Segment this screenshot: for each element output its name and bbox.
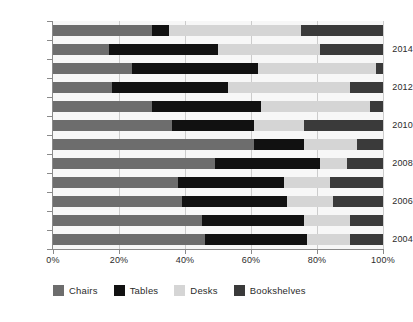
y-tick xyxy=(47,154,52,155)
legend-swatch-icon xyxy=(114,285,125,296)
bar-segment-chairs xyxy=(53,120,172,131)
bar-segment-tables xyxy=(132,63,257,74)
bar-segment-desks xyxy=(307,234,350,245)
bar-row xyxy=(53,215,383,226)
bar-segment-tables xyxy=(254,139,304,150)
bar-segment-chairs xyxy=(53,44,109,55)
bar-segment-chairs xyxy=(53,177,178,188)
bar-segment-bookshelves xyxy=(357,139,383,150)
bar-segment-chairs xyxy=(53,25,152,36)
bar-segment-tables xyxy=(152,101,261,112)
bar-segment-chairs xyxy=(53,234,205,245)
bar-segment-chairs xyxy=(53,63,132,74)
bar-row xyxy=(53,82,383,93)
bar-segment-desks xyxy=(169,25,301,36)
y-axis-label: 2006 xyxy=(369,196,413,206)
chart-legend: ChairsTablesDesksBookshelves xyxy=(53,285,322,296)
bar-row xyxy=(53,63,383,74)
bar-row xyxy=(53,101,383,112)
stacked-bar-chart: 201420122010200820062004 0%20%40%60%80%1… xyxy=(0,0,413,322)
bar-segment-desks xyxy=(258,63,377,74)
x-tick-40pct xyxy=(185,250,186,254)
x-axis-line xyxy=(52,249,384,250)
y-axis-label: 2004 xyxy=(369,234,413,244)
legend-item-tables[interactable]: Tables xyxy=(114,285,159,296)
bar-row xyxy=(53,234,383,245)
bar-segment-chairs xyxy=(53,82,112,93)
x-axis-label: 80% xyxy=(297,255,337,265)
bar-row xyxy=(53,139,383,150)
bar-segment-bookshelves xyxy=(370,101,383,112)
bar-segment-tables xyxy=(182,196,288,207)
bar-segment-desks xyxy=(254,120,304,131)
bar-segment-desks xyxy=(304,215,350,226)
legend-item-desks[interactable]: Desks xyxy=(174,285,217,296)
y-tick xyxy=(47,192,52,193)
legend-label: Tables xyxy=(130,285,159,296)
y-tick xyxy=(47,40,52,41)
bar-segment-tables xyxy=(202,215,304,226)
bar-segment-tables xyxy=(178,177,284,188)
y-axis-label: 2008 xyxy=(369,158,413,168)
y-tick xyxy=(47,21,52,22)
x-tick-60pct xyxy=(251,250,252,254)
x-axis-label: 40% xyxy=(165,255,205,265)
y-tick xyxy=(47,97,52,98)
bar-segment-desks xyxy=(284,177,330,188)
x-axis-label: 100% xyxy=(363,255,403,265)
x-axis-label: 0% xyxy=(33,255,73,265)
bar-segment-tables xyxy=(215,158,321,169)
y-tick xyxy=(47,78,52,79)
legend-label: Chairs xyxy=(69,285,98,296)
y-axis-label: 2010 xyxy=(369,120,413,130)
legend-swatch-icon xyxy=(53,285,64,296)
bar-row xyxy=(53,177,383,188)
bar-segment-bookshelves xyxy=(301,25,384,36)
y-tick xyxy=(47,116,52,117)
legend-item-bookshelves[interactable]: Bookshelves xyxy=(234,285,306,296)
bar-segment-desks xyxy=(218,44,320,55)
bar-row xyxy=(53,158,383,169)
bar-segment-chairs xyxy=(53,215,202,226)
bar-segment-bookshelves xyxy=(330,177,383,188)
legend-item-chairs[interactable]: Chairs xyxy=(53,285,98,296)
gridline-100pct xyxy=(383,21,384,249)
bar-segment-chairs xyxy=(53,101,152,112)
x-tick-0pct xyxy=(53,250,54,254)
bar-segment-chairs xyxy=(53,158,215,169)
bar-row xyxy=(53,196,383,207)
legend-swatch-icon xyxy=(174,285,185,296)
bar-segment-tables xyxy=(172,120,255,131)
bar-row xyxy=(53,25,383,36)
x-tick-20pct xyxy=(119,250,120,254)
bar-segment-tables xyxy=(109,44,218,55)
bar-segment-desks xyxy=(287,196,333,207)
bar-segment-tables xyxy=(205,234,307,245)
bar-segment-chairs xyxy=(53,196,182,207)
y-tick xyxy=(47,249,52,250)
x-tick-80pct xyxy=(317,250,318,254)
bar-segment-tables xyxy=(152,25,169,36)
legend-label: Desks xyxy=(190,285,217,296)
bar-segment-tables xyxy=(112,82,228,93)
legend-swatch-icon xyxy=(234,285,245,296)
y-tick xyxy=(47,173,52,174)
y-tick xyxy=(47,230,52,231)
bar-segment-desks xyxy=(320,158,346,169)
y-tick xyxy=(47,135,52,136)
bar-segment-chairs xyxy=(53,139,254,150)
y-axis-label: 2012 xyxy=(369,82,413,92)
x-tick-100pct xyxy=(383,250,384,254)
y-tick xyxy=(47,211,52,212)
bar-segment-desks xyxy=(228,82,350,93)
y-axis-label: 2014 xyxy=(369,44,413,54)
bar-segment-desks xyxy=(304,139,357,150)
bar-row xyxy=(53,120,383,131)
bar-segment-desks xyxy=(261,101,370,112)
y-tick xyxy=(47,59,52,60)
legend-label: Bookshelves xyxy=(250,285,306,296)
x-axis-label: 20% xyxy=(99,255,139,265)
x-axis-label: 60% xyxy=(231,255,271,265)
bar-segment-bookshelves xyxy=(376,63,383,74)
bar-row xyxy=(53,44,383,55)
